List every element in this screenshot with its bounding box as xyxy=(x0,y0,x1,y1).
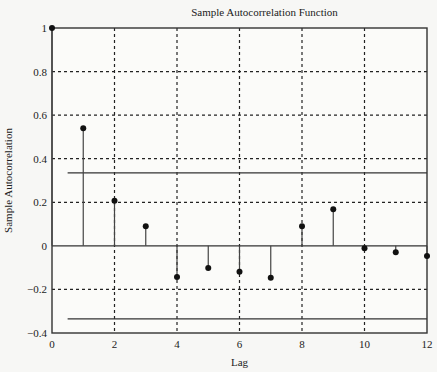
x-tick-label: 4 xyxy=(174,338,180,350)
y-tick-label: 0 xyxy=(42,240,48,252)
x-tick-label: 0 xyxy=(49,338,55,350)
stem-marker xyxy=(299,223,305,229)
y-tick-label: 1 xyxy=(42,22,48,34)
stem-marker xyxy=(393,249,399,255)
stem-marker xyxy=(143,223,149,229)
stem-marker xyxy=(330,206,336,212)
y-tick-label: 0.4 xyxy=(33,153,47,165)
stem-marker xyxy=(237,269,243,275)
stem-marker xyxy=(112,198,118,204)
stem-marker xyxy=(362,245,368,251)
chart-title: Sample Autocorrelation Function xyxy=(191,6,338,18)
x-tick-label: 12 xyxy=(422,338,433,350)
y-axis-label: Sample Autocorrelation xyxy=(2,128,14,233)
x-tick-label: 2 xyxy=(112,338,118,350)
x-tick-label: 8 xyxy=(299,338,305,350)
stem-marker xyxy=(268,275,274,281)
acf-chart: 024681012−0.4−0.200.20.40.60.81Sample Au… xyxy=(0,0,437,372)
y-tick-label: 0.6 xyxy=(33,109,47,121)
x-tick-label: 10 xyxy=(359,338,371,350)
x-tick-label: 6 xyxy=(237,338,243,350)
stem-marker xyxy=(205,265,211,271)
y-tick-label: 0.8 xyxy=(33,66,47,78)
stem-marker xyxy=(424,253,430,259)
y-tick-label: −0.2 xyxy=(27,283,47,295)
y-tick-label: 0.2 xyxy=(33,196,47,208)
stem-marker xyxy=(80,125,86,131)
x-axis-label: Lag xyxy=(231,356,249,368)
stem-marker xyxy=(174,274,180,280)
stem-marker xyxy=(49,25,55,31)
y-tick-label: −0.4 xyxy=(27,327,47,339)
